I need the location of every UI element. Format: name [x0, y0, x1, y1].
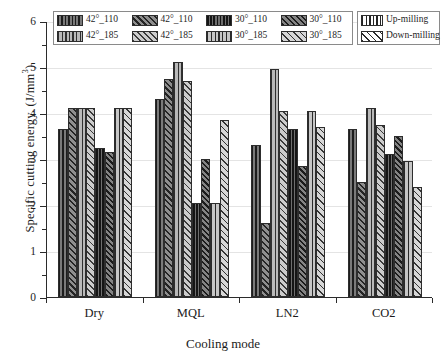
bar — [123, 108, 132, 297]
bar — [403, 161, 412, 297]
legend-label: 30°_110 — [235, 15, 267, 25]
bar — [307, 111, 316, 297]
bar — [220, 120, 229, 297]
legend-swatch-icon — [206, 15, 232, 26]
x-tick-mark — [239, 298, 240, 303]
plot-area — [46, 22, 432, 298]
y-tick-label: 6 — [14, 16, 36, 28]
x-tick-label-dry: Dry — [59, 306, 129, 321]
y-tick-label: 1 — [14, 246, 36, 258]
legend-item: Down-milling — [358, 28, 440, 44]
legend-item: 42°_110 — [129, 12, 204, 28]
bar — [192, 203, 201, 297]
bar — [288, 129, 297, 297]
bar — [210, 203, 219, 297]
bar — [201, 159, 210, 297]
legend-tool-conditions: 42°_11042°_11030°_11030°_11042°_18542°_1… — [53, 11, 353, 45]
bar — [316, 127, 325, 297]
y-tick-label: 0 — [14, 292, 36, 304]
legend-item: 42°_185 — [54, 28, 129, 44]
legend-item: Up-milling — [358, 12, 440, 28]
legend-label: Up-milling — [386, 15, 428, 25]
x-tick-label-mql: MQL — [156, 306, 226, 321]
legend-item: 30°_110 — [203, 12, 278, 28]
x-tick-label-ln2: LN2 — [252, 306, 322, 321]
legend-item: 30°_185 — [278, 28, 353, 44]
legend-item: 30°_185 — [203, 28, 278, 44]
bar — [413, 187, 422, 297]
bar — [105, 152, 114, 297]
bar — [173, 62, 182, 297]
bar — [366, 108, 375, 297]
legend-item: 42°_110 — [54, 12, 129, 28]
legend-item: 42°_185 — [129, 28, 204, 44]
bar — [155, 99, 164, 297]
x-tick-mark — [432, 298, 433, 303]
legend-label: 42°_185 — [86, 31, 118, 41]
legend-item: 30°_110 — [278, 12, 353, 28]
legend-swatch-icon — [281, 15, 307, 26]
bar — [385, 154, 394, 297]
bar — [376, 125, 385, 298]
x-axis-title: Cooling mode — [0, 336, 446, 352]
legend-label: 42°_185 — [161, 31, 193, 41]
legend-swatch-icon — [361, 31, 383, 42]
bar — [251, 145, 260, 297]
bar — [261, 223, 270, 297]
bar — [86, 108, 95, 297]
legend-swatch-icon — [281, 31, 307, 42]
bar — [279, 111, 288, 297]
legend-label: 42°_110 — [86, 15, 118, 25]
bar — [394, 136, 403, 297]
bar — [348, 129, 357, 297]
legend-swatch-icon — [132, 15, 158, 26]
legend-label: 30°_185 — [235, 31, 267, 41]
x-tick-mark — [46, 298, 47, 303]
bar — [114, 108, 123, 297]
bar — [357, 182, 366, 297]
y-tick-label: 5 — [14, 62, 36, 74]
bar — [77, 108, 86, 297]
x-tick-mark — [336, 298, 337, 303]
legend-swatch-icon — [361, 15, 383, 26]
y-tick-label: 3 — [14, 154, 36, 166]
legend-label: 42°_110 — [161, 15, 193, 25]
bar — [164, 79, 173, 298]
legend-swatch-icon — [206, 31, 232, 42]
x-tick-mark — [143, 298, 144, 303]
legend-swatch-icon — [57, 15, 83, 26]
legend-label: 30°_185 — [310, 31, 342, 41]
legend-swatch-icon — [57, 31, 83, 42]
bar — [183, 81, 192, 297]
specific-cutting-energy-bar-chart: Specific cutting energy. (J/mm3) 0123456… — [0, 0, 446, 362]
bar — [95, 148, 104, 298]
bar — [270, 69, 279, 297]
legend-swatch-icon — [132, 31, 158, 42]
legend-label: Down-milling — [386, 31, 440, 41]
bar — [298, 166, 307, 297]
bar — [58, 129, 67, 297]
bar — [68, 108, 77, 297]
legend-milling-direction: Up-millingDown-milling — [357, 11, 440, 45]
y-tick-label: 2 — [14, 200, 36, 212]
y-tick-label: 4 — [14, 108, 36, 120]
legend-label: 30°_110 — [310, 15, 342, 25]
gridline — [47, 68, 432, 69]
x-tick-label-co2: CO2 — [349, 306, 419, 321]
